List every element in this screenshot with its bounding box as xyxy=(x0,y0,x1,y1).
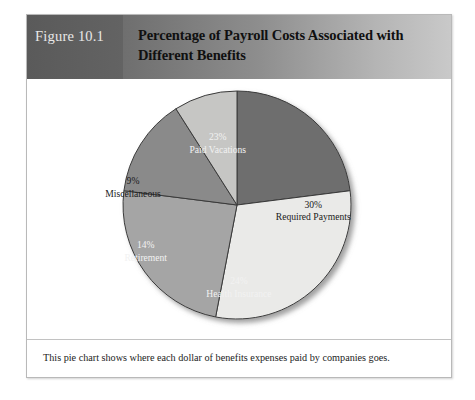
pie-slice-paid-vacations[interactable] xyxy=(237,91,350,205)
figure-title: Percentage of Payroll Costs Associated w… xyxy=(123,15,451,65)
figure-container: Figure 10.1 Percentage of Payroll Costs … xyxy=(26,14,452,378)
figure-caption: This pie chart shows where each dollar o… xyxy=(27,340,451,365)
figure-header-band: Figure 10.1 Percentage of Payroll Costs … xyxy=(27,15,451,79)
pie-chart-area: 23%Paid Vacations30%Required Payments24%… xyxy=(27,79,451,339)
figure-number-label: Figure 10.1 xyxy=(35,28,104,45)
pie-chart-svg xyxy=(116,86,362,332)
pie-slice-group xyxy=(123,91,351,319)
figure-number-block: Figure 10.1 xyxy=(27,15,123,79)
pie-chart: 23%Paid Vacations30%Required Payments24%… xyxy=(27,79,451,339)
